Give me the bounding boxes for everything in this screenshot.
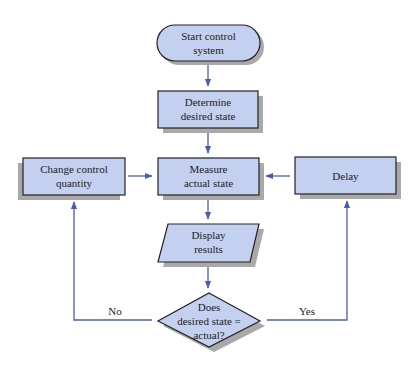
- node-determine: Determine desired state: [158, 91, 263, 133]
- node-start: Start control system: [157, 25, 264, 65]
- node-decision-line3: actual?: [193, 329, 224, 341]
- node-delay: Delay: [295, 157, 401, 199]
- node-change: Change control quantity: [18, 158, 125, 200]
- node-change-line1: Change control: [40, 163, 108, 175]
- node-determine-line2: desired state: [181, 110, 236, 122]
- node-determine-line1: Determine: [185, 96, 232, 108]
- edge-label-no: No: [108, 305, 122, 317]
- node-measure: Measure actual state: [158, 158, 264, 200]
- node-decision-line2: desired state =: [177, 315, 241, 327]
- node-change-line2: quantity: [56, 177, 93, 189]
- node-measure-line1: Measure: [190, 163, 228, 175]
- edge-decision-yes-to-delay: [267, 201, 347, 320]
- node-delay-line1: Delay: [332, 170, 359, 182]
- node-start-line1: Start control: [181, 30, 236, 42]
- node-decision-line1: Does: [198, 301, 221, 313]
- node-decision: Does desired state = actual?: [158, 293, 265, 352]
- node-display: Display results: [158, 224, 264, 267]
- node-measure-line2: actual state: [184, 177, 233, 189]
- edge-label-yes: Yes: [299, 305, 315, 317]
- node-start-line2: system: [193, 44, 224, 56]
- flowchart-diagram: No Yes Start control system Determine de…: [0, 0, 420, 369]
- edge-decision-no-to-change: [74, 202, 152, 320]
- node-display-line2: results: [194, 243, 223, 255]
- node-display-line1: Display: [191, 229, 226, 241]
